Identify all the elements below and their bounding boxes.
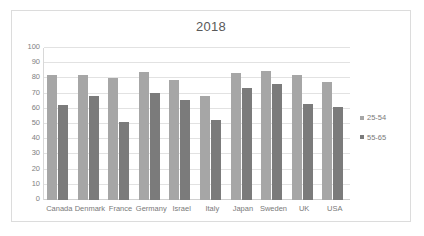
y-axis-tick-label: 0 — [36, 195, 40, 203]
legend-item[interactable]: 55-65 — [360, 134, 408, 142]
bar[interactable] — [58, 105, 68, 200]
chart-legend: 25-5455-65 — [360, 114, 408, 153]
bar[interactable] — [303, 104, 313, 200]
bar[interactable] — [89, 96, 99, 200]
x-axis-tick-label: France — [105, 205, 136, 213]
chart-title: 2018 — [12, 19, 410, 34]
bar[interactable] — [150, 93, 160, 200]
y-axis-tick-label: 70 — [32, 89, 40, 97]
plot-area: 0102030405060708090100CanadaDenmarkFranc… — [44, 48, 350, 200]
bar-group: USA — [319, 48, 350, 200]
bar-group: UK — [289, 48, 320, 200]
bar[interactable] — [211, 120, 221, 200]
y-axis-tick-label: 10 — [32, 180, 40, 188]
bar[interactable] — [272, 84, 282, 200]
bar-group: Sweden — [258, 48, 289, 200]
legend-swatch-icon — [360, 116, 364, 120]
bar[interactable] — [180, 100, 190, 200]
bar-group: Italy — [197, 48, 228, 200]
legend-item-label: 25-54 — [367, 114, 386, 122]
x-axis-tick-label: Canada — [44, 205, 75, 213]
legend-item-label: 55-65 — [367, 134, 386, 142]
bar[interactable] — [322, 82, 332, 200]
bar-group: Denmark — [75, 48, 106, 200]
bar-group: France — [105, 48, 136, 200]
x-axis-tick-label: Israel — [166, 205, 197, 213]
bar-group: Germany — [136, 48, 167, 200]
bar[interactable] — [333, 107, 343, 200]
y-axis-tick-label: 50 — [32, 119, 40, 127]
y-axis-tick-label: 60 — [32, 104, 40, 112]
bar[interactable] — [108, 78, 118, 200]
y-axis-tick-label: 20 — [32, 165, 40, 173]
bar[interactable] — [242, 88, 252, 200]
bar-group: Canada — [44, 48, 75, 200]
chart-container: 2018 0102030405060708090100CanadaDenmark… — [11, 10, 411, 222]
y-axis-tick-label: 100 — [27, 43, 40, 51]
x-axis-tick-label: Italy — [197, 205, 228, 213]
x-axis-tick-label: UK — [289, 205, 320, 213]
y-axis-tick-label: 80 — [32, 74, 40, 82]
y-axis-tick-label: 40 — [32, 134, 40, 142]
x-axis-tick-label: Japan — [228, 205, 259, 213]
x-axis-tick-label: Sweden — [258, 205, 289, 213]
x-axis-tick-label: Denmark — [75, 205, 106, 213]
legend-item[interactable]: 25-54 — [360, 114, 408, 122]
bar[interactable] — [169, 80, 179, 200]
bar-group: Israel — [166, 48, 197, 200]
bar[interactable] — [139, 72, 149, 200]
bar[interactable] — [119, 122, 129, 200]
legend-swatch-icon — [360, 135, 364, 139]
bar[interactable] — [231, 73, 241, 200]
bar[interactable] — [261, 71, 271, 200]
bar[interactable] — [292, 75, 302, 200]
x-axis-tick-label: Germany — [136, 205, 167, 213]
bar[interactable] — [78, 75, 88, 200]
x-axis-tick-label: USA — [319, 205, 350, 213]
bar[interactable] — [200, 96, 210, 200]
bar-group: Japan — [228, 48, 259, 200]
y-axis-tick-label: 90 — [32, 58, 40, 66]
bar[interactable] — [47, 75, 57, 200]
y-axis-tick-label: 30 — [32, 150, 40, 158]
